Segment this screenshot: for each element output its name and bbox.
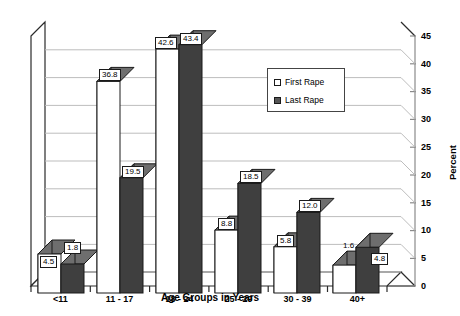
y-tick-45: 45 [421, 32, 431, 41]
bar-last-1b [120, 164, 157, 293]
y-axis-title: Percent [447, 145, 458, 180]
data-label-first-1: 36.8 [99, 69, 121, 81]
y-tick-0: 0 [421, 282, 426, 291]
bars-layer [0, 0, 460, 316]
y-tick-20: 20 [421, 171, 431, 180]
data-label-last-4: 12.0 [299, 200, 321, 212]
legend-label-last-rape: Last Rape [285, 95, 324, 105]
chart-legend: First Rape Last Rape [267, 68, 345, 112]
data-label-first-2: 42.6 [155, 37, 177, 49]
y-tick-10: 10 [421, 226, 431, 235]
bar-last-3 [238, 169, 275, 293]
data-label-last-5: 4.8 [371, 253, 388, 265]
data-label-first-4: 5.8 [277, 235, 294, 247]
data-label-last-3: 18.5 [240, 171, 262, 183]
filled-square-icon [274, 97, 281, 104]
data-label-last-0: 1.8 [64, 242, 81, 254]
data-label-last-1: 19.5 [122, 166, 144, 178]
data-label-first-3: 8.8 [218, 218, 235, 230]
y-tick-35: 35 [421, 87, 431, 96]
y-tick-40: 40 [421, 60, 431, 69]
data-label-first-5: 1.6 [340, 240, 357, 252]
legend-item-last-rape: Last Rape [274, 92, 338, 108]
bar-last-2 [179, 31, 216, 293]
bar-last-1 [61, 250, 98, 293]
data-label-last-2: 43.4 [180, 33, 202, 45]
open-square-icon [274, 79, 281, 86]
legend-label-first-rape: First Rape [285, 77, 324, 87]
legend-item-first-rape: First Rape [274, 74, 338, 90]
chart-container: 4.5 1.8 36.8 19.5 42.6 43.4 8.8 18.5 5.8… [0, 0, 460, 316]
y-tick-30: 30 [421, 115, 431, 124]
y-tick-25: 25 [421, 143, 431, 152]
y-tick-15: 15 [421, 199, 431, 208]
bar-last-4 [297, 198, 334, 293]
y-tick-5: 5 [421, 254, 426, 263]
data-label-first-0: 4.5 [40, 256, 57, 268]
x-axis-title: Age Groups in Years [0, 292, 420, 303]
